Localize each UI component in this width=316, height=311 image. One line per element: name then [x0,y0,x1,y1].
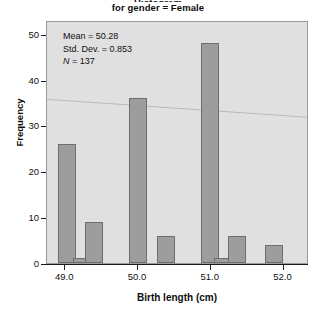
y-axis-tick-label: 10 [9,213,39,223]
plot-area: Mean = 50.28 Std. Dev. = 0.853 N = 137 [46,21,308,264]
histogram-bar [265,245,283,263]
y-axis-tick [41,218,46,219]
x-axis-tick [64,265,65,270]
histogram-bar [58,144,76,263]
y-axis-tick-label: 0 [9,259,39,269]
x-axis-tick-label: 52.0 [263,271,303,282]
y-axis-tick [41,172,46,173]
chart-title-block: Histogram for gender = Female [0,0,316,14]
mean-text: Mean = 50.28 [63,30,132,43]
chart-subtitle: for gender = Female [0,2,316,14]
histogram-bar [157,236,175,264]
x-axis-tick-label: 50.0 [117,271,157,282]
histogram-figure: Histogram for gender = Female Mean = 50.… [0,0,316,311]
stddev-text: Std. Dev. = 0.853 [63,43,132,56]
histogram-bar [129,98,147,263]
x-axis-tick [210,265,211,270]
histogram-bar [201,43,219,263]
y-axis-tick [41,264,46,265]
sample-size-text: N = 137 [63,55,132,68]
histogram-bar [228,236,246,264]
x-axis-line [46,264,308,265]
x-axis-tick [137,265,138,270]
x-axis-tick-label: 51.0 [190,271,230,282]
y-axis-tick [41,35,46,36]
histogram-bar [85,222,103,263]
n-value: = 137 [70,56,95,66]
y-axis-title: Frequency [14,63,25,183]
x-axis-title: Birth length (cm) [46,292,308,303]
y-axis-tick-label: 50 [9,30,39,40]
x-axis-tick-label: 49.0 [44,271,84,282]
y-axis-tick [41,126,46,127]
x-axis-tick [283,265,284,270]
statistics-annotation: Mean = 50.28 Std. Dev. = 0.853 N = 137 [63,30,132,68]
y-axis-tick [41,81,46,82]
